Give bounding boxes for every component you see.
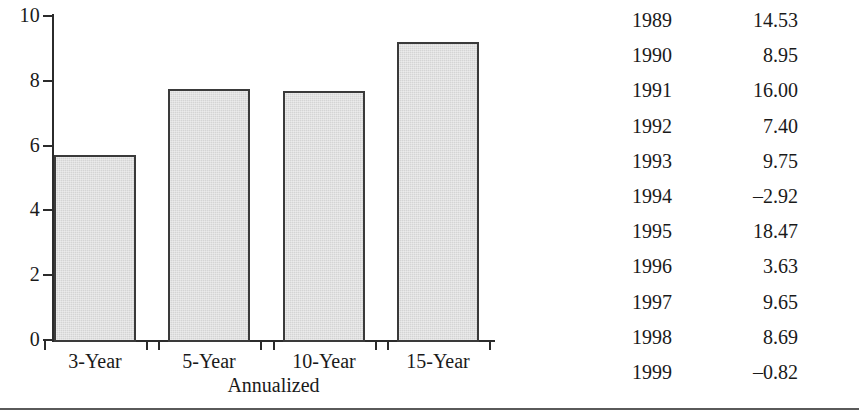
- table-cell-value: 8.69: [690, 326, 798, 348]
- table-cell-year: 1998: [560, 326, 672, 348]
- x-axis-tick: [260, 341, 262, 350]
- table-cell-year: 1994: [560, 185, 672, 207]
- x-axis-tick: [146, 341, 148, 350]
- x-axis-tick: [489, 341, 491, 350]
- y-axis-tick-label: 6: [0, 135, 40, 155]
- bar: [283, 91, 365, 342]
- table-row: 19988.69: [560, 326, 859, 361]
- table-cell-year: 1992: [560, 115, 672, 137]
- table-cell-year: 1989: [560, 9, 672, 31]
- x-axis-tick: [387, 341, 389, 350]
- y-axis-tick: [43, 274, 53, 276]
- table-cell-value: 18.47: [690, 220, 798, 242]
- table-cell-year: 1996: [560, 255, 672, 277]
- bar: [397, 42, 479, 342]
- x-axis-tick-label: 3-Year: [29, 350, 161, 372]
- table-cell-year: 1993: [560, 150, 672, 172]
- table-row: 19927.40: [560, 115, 859, 150]
- x-axis-tick-label: 10-Year: [258, 350, 390, 372]
- table-row: 19963.63: [560, 255, 859, 290]
- table-row: 198914.53: [560, 9, 859, 44]
- bar: [168, 89, 250, 342]
- y-axis-tick: [43, 145, 53, 147]
- x-axis-tick: [273, 341, 275, 350]
- table-cell-year: 1997: [560, 291, 672, 313]
- x-axis-tick: [158, 341, 160, 350]
- table-row: 19908.95: [560, 44, 859, 79]
- table-row: 1999–0.82: [560, 361, 859, 396]
- footer-divider: [0, 408, 859, 410]
- y-axis-tick: [43, 15, 53, 17]
- y-axis-tick: [43, 80, 53, 82]
- table-row: 199518.47: [560, 220, 859, 255]
- table-cell-value: 3.63: [690, 255, 798, 277]
- y-axis-tick-label: 10: [0, 5, 40, 25]
- table-row: 1994–2.92: [560, 185, 859, 220]
- table-cell-value: 9.75: [690, 150, 798, 172]
- x-axis-title: Annualized: [52, 374, 495, 396]
- y-axis-tick-label: 8: [0, 70, 40, 90]
- table-cell-year: 1991: [560, 79, 672, 101]
- x-axis-tick: [44, 341, 46, 350]
- bar: [54, 155, 136, 342]
- table-cell-value: 14.53: [690, 9, 798, 31]
- bar-chart-figure: 0246810 3-Year5-Year10-Year15-Year Annua…: [0, 0, 560, 400]
- x-axis-tick-label: 5-Year: [143, 350, 275, 372]
- y-axis-tick-label: 4: [0, 199, 40, 219]
- table-cell-value: 16.00: [690, 79, 798, 101]
- table-cell-value: 7.40: [690, 115, 798, 137]
- table-row: 19979.65: [560, 291, 859, 326]
- y-axis-tick: [43, 209, 53, 211]
- table-cell-year: 1990: [560, 44, 672, 66]
- table-row: 199116.00: [560, 79, 859, 114]
- x-axis-tick: [375, 341, 377, 350]
- table-cell-year: 1999: [560, 361, 672, 383]
- y-axis-tick-label: 2: [0, 264, 40, 284]
- table-cell-value: 8.95: [690, 44, 798, 66]
- annual-returns-table: 198914.5319908.95199116.0019927.4019939.…: [560, 0, 859, 400]
- y-axis-tick-label: 0: [0, 329, 40, 349]
- table-row: 19939.75: [560, 150, 859, 185]
- table-cell-value: –2.92: [690, 185, 798, 207]
- table-cell-year: 1995: [560, 220, 672, 242]
- x-axis-tick-label: 15-Year: [372, 350, 504, 372]
- table-cell-value: –0.82: [690, 361, 798, 383]
- table-cell-value: 9.65: [690, 291, 798, 313]
